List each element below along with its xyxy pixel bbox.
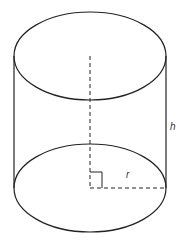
radius-label: r bbox=[126, 170, 129, 180]
right-angle-marker bbox=[90, 172, 102, 188]
cylinder-diagram bbox=[0, 0, 184, 246]
height-label: h bbox=[170, 122, 176, 132]
